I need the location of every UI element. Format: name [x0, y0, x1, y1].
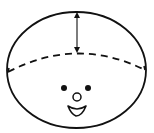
right-tick [144, 66, 145, 70]
right-eye [85, 85, 91, 91]
head-diagram [0, 0, 154, 133]
smile-mouth [68, 106, 86, 116]
dashed-arc [8, 53, 145, 72]
left-tick [8, 68, 9, 72]
left-eye [61, 85, 67, 91]
nose [73, 93, 81, 101]
